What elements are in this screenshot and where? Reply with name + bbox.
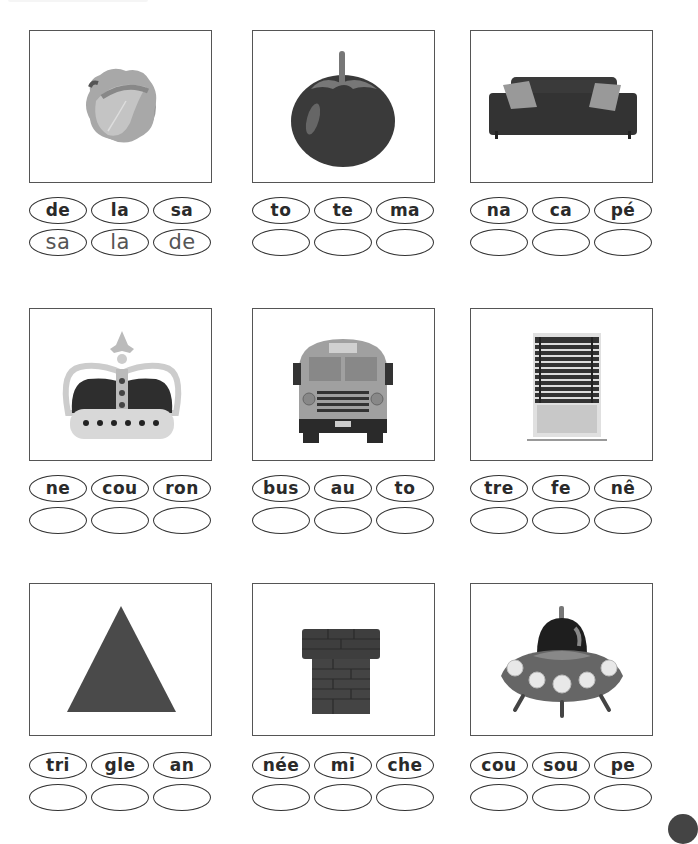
syllable-text: fe [551, 480, 571, 497]
crown-icon [30, 309, 211, 460]
answer-oval[interactable] [376, 229, 434, 256]
syllable-oval: ne [29, 475, 87, 502]
answer-oval[interactable]: la [91, 229, 149, 256]
syllable-text: cou [102, 480, 137, 497]
flying-saucer-icon [471, 584, 652, 735]
syllable-oval: ron [153, 475, 211, 502]
answer-oval[interactable] [252, 229, 310, 256]
syllable-oval: au [314, 475, 372, 502]
syllable-text: la [111, 202, 129, 219]
answer-text: sa [46, 232, 71, 253]
answer-oval[interactable] [314, 507, 372, 534]
syllable-row: cou sou pe [470, 752, 654, 779]
answer-oval[interactable] [314, 784, 372, 811]
syllable-text: an [170, 757, 195, 774]
picture-frame [252, 583, 435, 736]
syllable-text: sou [543, 757, 578, 774]
answer-row: sa la de [29, 229, 213, 256]
syllable-oval: mi [314, 752, 372, 779]
picture-frame [470, 308, 653, 461]
syllable-oval: sou [532, 752, 590, 779]
answer-oval[interactable] [153, 507, 211, 534]
syllable-oval: nê [594, 475, 652, 502]
answer-oval[interactable] [376, 784, 434, 811]
syllable-oval: cou [470, 752, 528, 779]
syllable-oval: de [29, 197, 87, 224]
picture-frame [29, 30, 212, 183]
answer-oval[interactable] [532, 229, 590, 256]
cabbage-icon [30, 31, 211, 182]
syllable-oval: pe [594, 752, 652, 779]
syllable-oval: pé [594, 197, 652, 224]
syllable-oval: la [91, 197, 149, 224]
answer-oval[interactable] [29, 507, 87, 534]
syllable-oval: née [252, 752, 310, 779]
syllable-oval: te [314, 197, 372, 224]
answer-oval[interactable] [91, 507, 149, 534]
answer-oval[interactable] [470, 229, 528, 256]
answer-oval[interactable] [594, 229, 652, 256]
syllable-text: te [333, 202, 354, 219]
syllable-text: cou [481, 757, 516, 774]
answer-oval[interactable]: de [153, 229, 211, 256]
syllable-oval: an [153, 752, 211, 779]
syllable-text: ne [46, 480, 71, 497]
syllable-text: au [331, 480, 356, 497]
picture-frame [29, 308, 212, 461]
syllable-row: to te ma [252, 197, 436, 224]
answer-oval[interactable] [252, 784, 310, 811]
answer-oval[interactable] [594, 507, 652, 534]
answer-oval[interactable] [532, 507, 590, 534]
syllable-text: na [487, 202, 512, 219]
answer-row [252, 507, 436, 534]
syllable-oval: ma [376, 197, 434, 224]
syllable-text: pe [611, 757, 636, 774]
answer-oval[interactable] [594, 784, 652, 811]
syllable-text: tre [484, 480, 514, 497]
picture-frame [470, 583, 653, 736]
bus-icon [253, 309, 434, 460]
answer-oval[interactable] [153, 784, 211, 811]
picture-frame [470, 30, 653, 183]
answer-oval[interactable] [91, 784, 149, 811]
syllable-text: tri [46, 757, 70, 774]
syllable-text: mi [331, 757, 356, 774]
syllable-text: ma [390, 202, 420, 219]
answer-row [470, 784, 654, 811]
syllable-oval: che [376, 752, 434, 779]
syllable-text: to [271, 202, 292, 219]
answer-oval[interactable] [252, 507, 310, 534]
chimney-icon [253, 584, 434, 735]
syllable-oval: cou [91, 475, 149, 502]
answer-oval[interactable] [376, 507, 434, 534]
answer-oval[interactable]: sa [29, 229, 87, 256]
syllable-text: nê [611, 480, 636, 497]
picture-frame [252, 30, 435, 183]
syllable-oval: tri [29, 752, 87, 779]
answer-text: de [168, 232, 195, 253]
triangle-icon [30, 584, 211, 735]
answer-row [470, 229, 654, 256]
syllable-text: gle [104, 757, 135, 774]
syllable-text: bus [263, 480, 299, 497]
tomato-icon [253, 31, 434, 182]
answer-row [470, 507, 654, 534]
syllable-row: ne cou ron [29, 475, 213, 502]
syllable-oval: na [470, 197, 528, 224]
syllable-oval: gle [91, 752, 149, 779]
answer-row [252, 784, 436, 811]
syllable-row: tre fe nê [470, 475, 654, 502]
answer-oval[interactable] [470, 784, 528, 811]
syllable-oval: ca [532, 197, 590, 224]
syllable-text: ron [165, 480, 199, 497]
picture-frame [29, 583, 212, 736]
syllable-oval: tre [470, 475, 528, 502]
answer-oval[interactable] [470, 507, 528, 534]
answer-oval[interactable] [29, 784, 87, 811]
syllable-text: née [263, 757, 300, 774]
syllable-text: sa [171, 202, 194, 219]
syllable-text: de [46, 202, 71, 219]
page-corner-decoration [668, 814, 698, 844]
answer-oval[interactable] [532, 784, 590, 811]
answer-oval[interactable] [314, 229, 372, 256]
